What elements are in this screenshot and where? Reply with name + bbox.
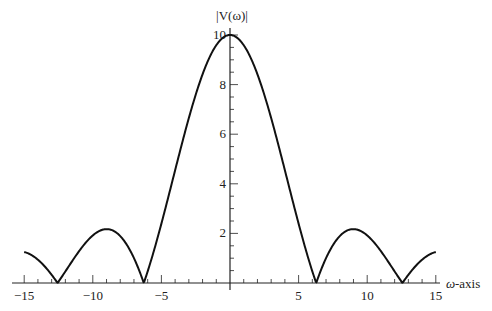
x-tick-label: 10 [361,288,374,303]
x-tick-label: −5 [154,288,168,303]
y-axis-label: |V(ω)| [216,8,248,23]
x-tick-label: 15 [429,288,442,303]
y-tick-label: 4 [220,176,227,191]
y-tick-label: 8 [220,77,227,92]
x-tick-label: −10 [83,288,103,303]
x-tick-label: −15 [14,288,34,303]
x-axis-label-omega: ω [446,276,455,291]
x-axis-label-suffix: -axis [455,276,480,291]
x-tick-label: 5 [295,288,302,303]
y-tick-label: 6 [220,126,227,141]
y-tick-label: 2 [220,225,227,240]
ticks: −15−10−551015246810 [14,27,442,303]
x-axis-label: ω -axis [446,276,480,291]
axes [12,28,440,290]
chart: −15−10−551015246810 |V(ω)| ω -axis [0,0,492,311]
